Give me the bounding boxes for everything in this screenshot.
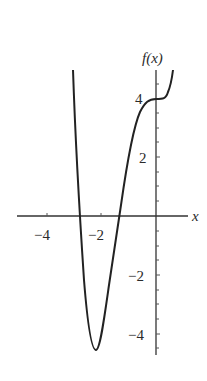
y-tick-label: 4	[135, 91, 143, 107]
y-tick-label: −4	[128, 327, 144, 343]
x-axis-label: x	[191, 208, 199, 224]
y-tick-label: −2	[128, 268, 144, 284]
y-tick-label: 2	[139, 150, 147, 166]
x-tick-label: −4	[34, 227, 50, 243]
y-axis-label: f(x)	[142, 50, 163, 67]
function-curve	[73, 70, 173, 350]
x-tick-label: −2	[88, 227, 104, 243]
function-graph: x f(x) −4 −2 4 2 −2 −4	[0, 0, 207, 381]
